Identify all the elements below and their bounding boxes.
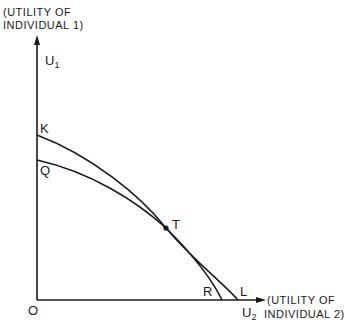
x-axis-arrow-icon	[256, 297, 266, 303]
label-k: K	[40, 122, 49, 135]
x-axis-title-line2: INDIVIDUAL 2)	[264, 308, 345, 321]
label-r: R	[203, 285, 212, 298]
y-axis-title: (UTILITY OF INDIVIDUAL 1)	[3, 6, 84, 32]
y-axis-arrow-icon	[34, 35, 40, 45]
point-t-dot	[163, 225, 168, 230]
x-axis-symbol-letter: U	[242, 305, 251, 320]
label-t: T	[172, 218, 180, 231]
label-q: Q	[40, 164, 50, 177]
label-l: L	[240, 285, 247, 298]
y-axis-symbol-letter: U	[45, 53, 54, 68]
y-axis-symbol: U1	[45, 54, 59, 67]
curve-qr	[37, 160, 222, 300]
origin-label: O	[28, 304, 38, 317]
y-axis-title-line1: (UTILITY OF	[3, 6, 84, 19]
x-axis-symbol: U2	[242, 306, 256, 319]
x-axis-title-line1: (UTILITY OF	[267, 294, 335, 307]
y-axis-subscript: 1	[54, 60, 59, 70]
x-axis-subscript: 2	[251, 312, 256, 322]
y-axis-title-line2: INDIVIDUAL 1)	[3, 19, 84, 32]
